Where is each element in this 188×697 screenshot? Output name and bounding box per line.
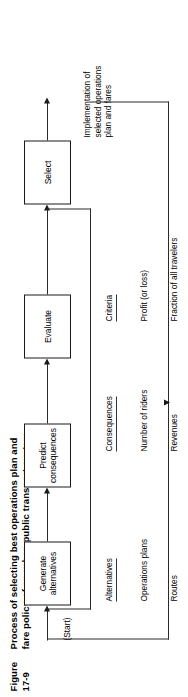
annotation-alternatives-item: Routes [169, 538, 179, 601]
node-select[interactable]: Select [24, 140, 71, 204]
node-select-label: Select [43, 160, 53, 184]
node-predict-consequences-label: Predict consequences [38, 428, 58, 483]
figure-number: Figure 17-9 [8, 661, 31, 691]
node-generate-alternatives[interactable]: Generate alternatives [24, 541, 71, 605]
start-connector [47, 610, 48, 640]
node-evaluate[interactable]: Evaluate [24, 294, 71, 358]
annotation-consequences-item: Number of riders [139, 389, 149, 451]
inner-feedback-across [90, 208, 91, 609]
annotation-criteria-item: Profit (or loss) [139, 234, 149, 321]
annotation-consequences-item: Revenues [169, 389, 179, 451]
annotation-criteria-item: Fraction of all travelers [169, 234, 179, 321]
outer-feedback-across [168, 101, 169, 639]
outer-feedback-up [47, 638, 169, 639]
inner-feedback-down [47, 208, 91, 209]
annotation-criteria-heading: Criteria [104, 294, 116, 321]
start-label: (Start) [62, 617, 72, 640]
annotation-consequences-heading: Consequences [104, 396, 116, 451]
connector-select-to-implementation [47, 102, 48, 140]
inner-feedback-up [47, 608, 91, 609]
arrowhead-implementation [44, 97, 50, 103]
annotation-criteria: Criteria Profit (or loss) Fraction of al… [84, 234, 188, 321]
node-generate-alternatives-label: Generate alternatives [38, 551, 58, 594]
diagram-canvas: Figure 17-9 Process of selecting best op… [0, 0, 188, 697]
annotation-consequences: Consequences Number of riders Revenues C… [84, 389, 188, 451]
annotation-alternatives-item: Operations plans [139, 538, 149, 601]
outer-feedback-arrowhead [164, 399, 170, 405]
arrowhead-generate-to-predict [44, 487, 50, 493]
outer-feedback-down [90, 101, 169, 102]
connector-generate-to-predict [47, 492, 48, 541]
annotation-alternatives: Alternatives Operations plans Routes Dep… [84, 538, 188, 601]
figure-page: Figure 17-9 Process of selecting best op… [0, 0, 188, 697]
connector-predict-to-evaluate [47, 363, 48, 423]
connector-evaluate-to-select [47, 209, 48, 294]
node-predict-consequences[interactable]: Predict consequences [24, 423, 71, 487]
annotation-alternatives-heading: Alternatives [104, 558, 116, 601]
node-evaluate-label: Evaluate [43, 309, 53, 342]
arrowhead-predict-to-evaluate [44, 358, 50, 364]
